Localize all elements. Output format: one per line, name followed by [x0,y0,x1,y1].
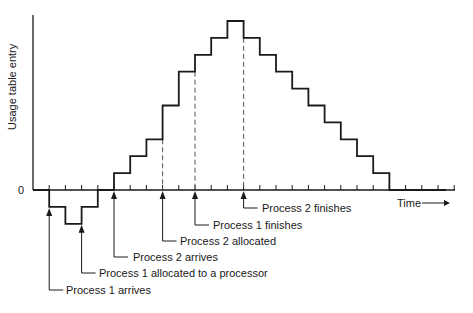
x-axis-label: Time [397,197,421,209]
arrowhead-icon [192,191,198,199]
y-axis-label: Usage table entry [6,44,18,130]
annotation-p2-arrives: Process 2 arrives [133,251,218,263]
arrowhead-icon [241,191,247,199]
usage-step-curve [33,21,446,224]
annotation-p2-finishes: Process 2 finishes [262,202,351,214]
arrowhead-icon [111,191,117,199]
arrowhead-icon [160,191,166,199]
annotation-p1-arrives: Process 1 arrives [66,284,151,296]
annotation-p1-allocated: Process 1 allocated to a processor [99,267,268,279]
annotation-p1-finishes: Process 1 finishes [213,219,302,231]
zero-label: 0 [18,184,24,196]
arrowhead-icon [46,208,52,216]
time-arrowhead-icon [444,200,450,206]
arrowhead-icon [79,225,85,233]
annotation-p2-allocated: Process 2 allocated [180,235,276,247]
dashed-markers [163,38,244,190]
